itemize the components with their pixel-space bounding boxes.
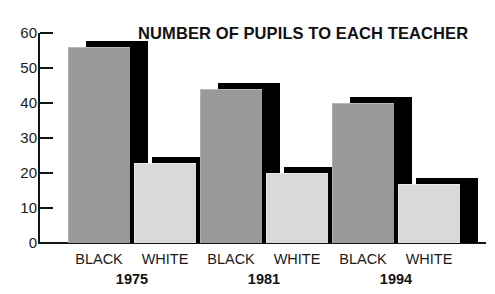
plot-area: 6050403020100 BLACKWHITEBLACKWHITEBLACKW… [0, 0, 495, 294]
y-tick-label-20: 20 [3, 165, 37, 180]
y-tick-label-50: 50 [3, 60, 37, 75]
bar-1981-black[interactable] [200, 89, 262, 243]
bar-1975-black[interactable] [68, 47, 130, 243]
y-tick-label-10: 10 [3, 200, 37, 215]
y-tick-mark-10 [40, 207, 53, 209]
group-label-1981: 1981 [190, 272, 338, 287]
y-tick-label-0: 0 [3, 235, 37, 250]
bar-1994-black[interactable] [332, 103, 394, 243]
y-tick-label-30: 30 [3, 130, 37, 145]
category-label-1994-white: WHITE [388, 252, 470, 267]
y-tick-label-40: 40 [3, 95, 37, 110]
group-label-1975: 1975 [58, 272, 206, 287]
y-tick-label-60: 60 [3, 25, 37, 40]
y-tick-mark-40 [40, 102, 53, 104]
bar-1994-white[interactable] [398, 184, 460, 244]
group-label-1994: 1994 [322, 272, 470, 287]
bar-1975-white[interactable] [134, 163, 196, 244]
bar-1981-white[interactable] [266, 173, 328, 243]
y-tick-mark-20 [40, 172, 53, 174]
bar-chart-figure: NUMBER OF PUPILS TO EACH TEACHER 6050403… [0, 0, 495, 294]
y-tick-mark-0 [40, 242, 53, 244]
y-tick-mark-30 [40, 137, 53, 139]
y-tick-mark-50 [40, 67, 53, 69]
y-tick-mark-60 [40, 32, 53, 34]
